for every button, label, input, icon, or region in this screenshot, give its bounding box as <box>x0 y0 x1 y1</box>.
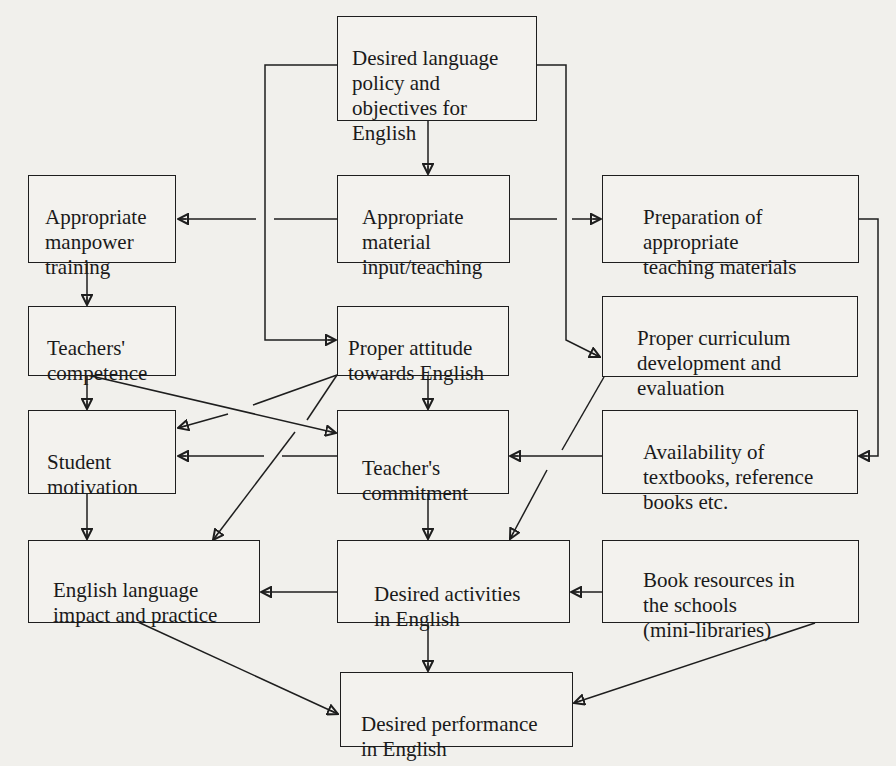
edge-policy-attitude <box>265 185 336 340</box>
node-label: Proper curriculum development and evalua… <box>637 326 857 401</box>
node-label: Preparation of appropriate teaching mate… <box>643 205 858 280</box>
node-teachers-commitment: Teacher's commitment <box>337 410 509 494</box>
node-label: Availability of textbooks, reference boo… <box>643 440 857 515</box>
edge-policy-curriculum <box>536 65 600 357</box>
edge-preparation-availability <box>858 219 878 456</box>
node-language-policy: Desired language policy and objectives f… <box>337 16 537 121</box>
node-desired-activities: Desired activities in English <box>337 540 570 623</box>
node-teaching-materials: Preparation of appropriate teaching mate… <box>602 175 859 263</box>
node-student-motivation: Student motivation <box>28 410 176 494</box>
node-textbook-availability: Availability of textbooks, reference boo… <box>602 410 858 494</box>
node-proper-attitude: Proper attitude towards English <box>337 306 509 376</box>
node-label: Desired activities in English <box>374 582 569 632</box>
node-material-input: Appropriate material input/teaching <box>337 175 510 263</box>
node-label: Desired performance in English <box>361 712 572 762</box>
node-english-impact: English language impact and practice <box>28 540 260 623</box>
node-teachers-competence: Teachers' competence <box>28 306 176 376</box>
node-label: Teacher's commitment <box>362 456 508 506</box>
node-label: Teachers' competence <box>47 336 175 386</box>
edge-attitude-impact <box>213 432 295 540</box>
node-desired-performance: Desired performance in English <box>340 672 573 747</box>
node-label: Student motivation <box>47 450 175 500</box>
node-label: Appropriate manpower training <box>45 205 175 280</box>
node-label: Proper attitude towards English <box>348 336 508 386</box>
edge-curriculum-activities <box>510 470 547 539</box>
node-label: Book resources in the schools (mini-libr… <box>643 568 858 643</box>
node-label: English language impact and practice <box>53 578 259 628</box>
node-label: Desired language policy and objectives f… <box>352 46 536 146</box>
node-manpower-training: Appropriate manpower training <box>28 175 176 263</box>
node-curriculum-development: Proper curriculum development and evalua… <box>602 296 858 377</box>
node-label: Appropriate material input/teaching <box>362 205 509 280</box>
flowchart-diagram: Desired language policy and objectives f… <box>0 0 896 766</box>
edge-attitude-motivation <box>178 414 228 428</box>
node-book-resources: Book resources in the schools (mini-libr… <box>602 540 859 623</box>
